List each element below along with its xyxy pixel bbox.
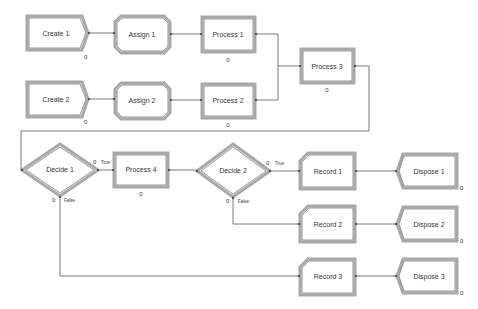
create-2-count: 0 bbox=[84, 119, 88, 125]
process-2-label: Process 2 bbox=[212, 97, 243, 104]
decide-1-label: Decide 1 bbox=[46, 166, 74, 173]
decide-2-false-count: 0 bbox=[226, 198, 230, 204]
assign-1-label: Assign 1 bbox=[129, 31, 156, 39]
decide-1-true-count: 0 bbox=[93, 159, 97, 165]
decide-2-module[interactable]: Decide 2 0 True 0 False bbox=[196, 144, 285, 204]
process-1-label: Process 1 bbox=[212, 31, 243, 38]
decide-2-false-label: False bbox=[238, 199, 250, 204]
create-1-module[interactable]: Create 1 0 bbox=[27, 16, 90, 60]
process-1-module[interactable]: Process 1 0 bbox=[200, 17, 257, 63]
dispose-3-count: 0 bbox=[460, 290, 464, 296]
dispose-1-label: Dispose 1 bbox=[413, 168, 444, 176]
decide-2-true-label: True bbox=[275, 161, 285, 166]
dispose-1-count: 0 bbox=[460, 185, 464, 191]
assign-1-module[interactable]: Assign 1 bbox=[113, 16, 172, 53]
process-2-count: 0 bbox=[226, 122, 230, 128]
process-4-label: Process 4 bbox=[125, 166, 156, 173]
create-2-module[interactable]: Create 2 0 bbox=[27, 82, 90, 125]
dispose-3-label: Dispose 3 bbox=[413, 273, 444, 281]
decide-1-module[interactable]: Decide 1 0 True 0 False bbox=[21, 144, 111, 203]
decide-2-label: Decide 2 bbox=[219, 167, 247, 174]
create-1-label: Create 1 bbox=[43, 30, 70, 37]
decide-2-true-count: 0 bbox=[266, 160, 270, 166]
connector-process2-process3[interactable] bbox=[255, 66, 278, 100]
record-3-module[interactable]: Record 3 bbox=[298, 259, 357, 295]
assign-2-module[interactable]: Assign 2 bbox=[113, 83, 172, 119]
record-1-label: Record 1 bbox=[314, 168, 343, 175]
dispose-3-module[interactable]: Dispose 3 0 bbox=[395, 259, 464, 296]
dispose-2-count: 0 bbox=[460, 238, 464, 244]
dispose-1-module[interactable]: Dispose 1 0 bbox=[395, 154, 464, 191]
connector-decide1-record3[interactable] bbox=[60, 197, 300, 276]
create-1-count: 0 bbox=[84, 54, 88, 60]
record-3-label: Record 3 bbox=[314, 273, 343, 280]
process-3-label: Process 3 bbox=[311, 63, 342, 70]
decide-1-false-label: False bbox=[64, 198, 76, 203]
decide-1-false-count: 0 bbox=[52, 197, 56, 203]
create-2-label: Create 2 bbox=[43, 96, 70, 103]
dispose-2-label: Dispose 2 bbox=[413, 221, 444, 229]
dispose-2-module[interactable]: Dispose 2 0 bbox=[395, 207, 464, 244]
process-2-module[interactable]: Process 2 0 bbox=[200, 84, 257, 128]
flowchart-canvas: Create 1 0 Assign 1 Process 1 0 Create 2… bbox=[0, 0, 478, 309]
record-2-module[interactable]: Record 2 bbox=[298, 206, 357, 242]
record-2-label: Record 2 bbox=[314, 221, 343, 228]
process-3-count: 0 bbox=[325, 87, 329, 93]
process-1-count: 0 bbox=[226, 57, 230, 63]
process-4-module[interactable]: Process 4 0 bbox=[112, 153, 170, 197]
process-4-count: 0 bbox=[139, 191, 143, 197]
decide-1-true-label: True bbox=[101, 160, 111, 165]
assign-2-label: Assign 2 bbox=[129, 97, 156, 105]
process-3-module[interactable]: Process 3 0 bbox=[299, 49, 356, 93]
record-1-module[interactable]: Record 1 bbox=[298, 153, 357, 189]
connector-process1-process3[interactable] bbox=[255, 34, 301, 66]
